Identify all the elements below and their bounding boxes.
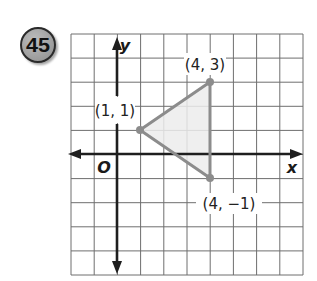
x-axis-arrow-left-icon	[68, 149, 81, 159]
y-axis-arrow-down-icon	[112, 261, 122, 274]
vertex-point-4-neg1	[206, 174, 214, 182]
vertex-point-1-1	[136, 126, 144, 134]
x-axis-label: x	[286, 158, 298, 177]
triangle-fill	[140, 82, 210, 178]
vertex-label-4-3: (4, 3)	[185, 56, 225, 74]
problem-number-badge: 45	[21, 28, 55, 62]
coordinate-graph-figure: 45 (1, 1) (4, 3) (4, −1) y x O	[0, 0, 317, 281]
problem-number: 45	[26, 34, 50, 56]
triangle-abc	[140, 82, 210, 178]
vertex-point-4-3	[206, 78, 214, 86]
vertex-label-4-neg1: (4, −1)	[203, 195, 256, 213]
origin-label: O	[97, 158, 111, 177]
y-axis-label: y	[120, 36, 131, 55]
vertex-label-1-1: (1, 1)	[95, 102, 135, 120]
